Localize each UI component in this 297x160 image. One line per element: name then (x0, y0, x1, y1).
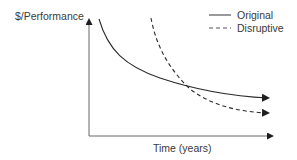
x-axis-label: Time (years) (153, 142, 212, 154)
legend: Original Disruptive (209, 9, 284, 34)
y-axis-label: $/Performance (15, 10, 84, 22)
disruption-chart: $/Performance Time (years) Original Disr… (0, 0, 297, 160)
legend-original-label: Original (237, 9, 273, 21)
legend-disruptive-label: Disruptive (237, 22, 284, 34)
